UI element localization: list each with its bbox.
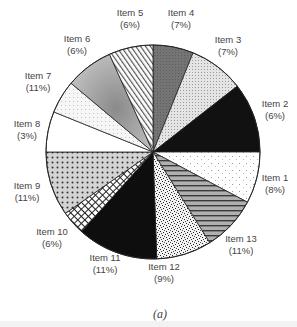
slice-label-item-12: Item 12(9%) [148,261,180,285]
slice-label-percent: (8%) [262,184,288,196]
slice-label-name: Item 3 [215,34,241,46]
slice-label-item-7: Item 7(11%) [25,70,51,94]
slice-label-item-1: Item 1(8%) [262,172,288,196]
slice-label-percent: (6%) [36,238,68,250]
slice-label-percent: (6%) [64,45,90,57]
slice-label-percent: (11%) [14,192,40,204]
slice-label-item-3: Item 3(7%) [215,34,241,58]
slice-label-percent: (3%) [14,130,40,142]
slice-label-name: Item 1 [262,172,288,184]
slice-label-item-5: Item 5(6%) [117,7,143,31]
page-bottom-band [0,321,297,327]
slice-label-percent: (6%) [262,110,288,122]
slice-label-item-8: Item 8(3%) [14,118,40,142]
slice-label-name: Item 9 [14,180,40,192]
slice-label-item-13: Item 13(11%) [225,233,257,257]
slice-label-name: Item 11 [90,252,121,264]
slice-label-name: Item 10 [36,226,68,238]
slice-label-percent: (7%) [215,46,241,58]
slice-label-name: Item 5 [117,7,143,19]
slice-label-item-4: Item 4(7%) [168,7,194,31]
slice-label-percent: (7%) [168,19,194,31]
slice-label-name: Item 4 [168,7,194,19]
pie-slices [46,45,260,259]
slice-label-percent: (6%) [117,19,143,31]
slice-label-item-9: Item 9(11%) [14,180,40,204]
slice-label-name: Item 12 [148,261,180,273]
slice-label-percent: (11%) [25,82,51,94]
slice-label-item-6: Item 6(6%) [64,33,90,57]
slice-label-percent: (11%) [90,264,121,276]
slice-label-name: Item 13 [225,233,257,245]
slice-label-item-10: Item 10(6%) [36,226,68,250]
slice-label-percent: (11%) [225,245,257,257]
figure-caption: (a) [153,307,167,322]
slice-label-item-11: Item 11(11%) [90,252,121,276]
slice-label-name: Item 6 [64,33,90,45]
slice-label-percent: (9%) [148,273,180,285]
slice-label-name: Item 2 [262,98,288,110]
slice-label-name: Item 7 [25,70,51,82]
slice-label-item-2: Item 2(6%) [262,98,288,122]
slice-label-name: Item 8 [14,118,40,130]
